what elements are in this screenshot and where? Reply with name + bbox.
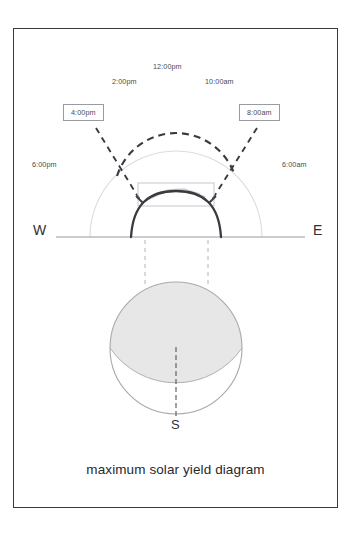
cardinal-east-label: E [313,222,322,238]
time-label-6pm: 6:00pm [32,160,57,169]
cardinal-west-label: W [33,222,46,238]
time-label-2pm: 2:00pm [112,77,137,86]
time-label-10am: 10:00am [205,77,234,86]
time-label-noon: 12:00pm [153,62,182,71]
diagram-frame [13,28,338,508]
time-label-8am-boxed[interactable]: 8:00am [239,104,280,121]
diagram-canvas: 12:00pm 2:00pm 10:00am 4:00pm 8:00am 6:0… [0,0,355,533]
time-label-4pm-boxed[interactable]: 4:00pm [63,104,104,121]
cardinal-south-label: S [171,417,180,432]
diagram-caption: maximum solar yield diagram [13,462,338,477]
time-label-6am: 6:00am [282,160,307,169]
